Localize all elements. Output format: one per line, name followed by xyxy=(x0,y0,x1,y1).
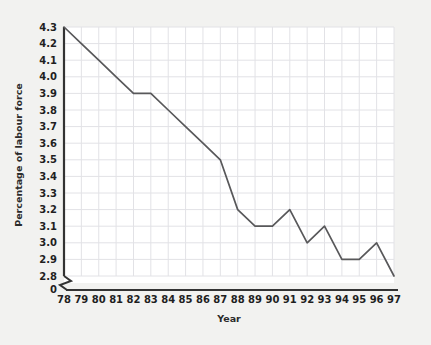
y-axis-tick-label: 3.2 xyxy=(39,204,57,215)
y-axis-tick-label: 3.3 xyxy=(39,188,57,199)
y-axis-tick-label: 4.0 xyxy=(39,71,57,82)
y-axis-tick-label: 3.8 xyxy=(39,105,57,116)
x-axis-tick-label: 80 xyxy=(92,294,106,305)
line-chart: 4.34.24.14.03.93.83.73.63.53.43.33.23.13… xyxy=(0,0,431,345)
y-axis-tick-label: 4.1 xyxy=(39,55,57,66)
x-axis-tick-label: 94 xyxy=(335,294,349,305)
y-axis-tick-label: 4.2 xyxy=(39,38,57,49)
x-axis-tick-label: 84 xyxy=(161,294,175,305)
x-axis-tick-label: 79 xyxy=(74,294,88,305)
x-axis-tick-label: 88 xyxy=(231,294,245,305)
x-axis-tick-label: 86 xyxy=(196,294,210,305)
y-axis-tick-label: 4.3 xyxy=(39,22,57,33)
y-axis-tick-label: 2.8 xyxy=(39,271,57,282)
x-axis-tick-label: 81 xyxy=(109,294,123,305)
y-axis-tick-label: 3.4 xyxy=(39,171,57,182)
x-axis-tick-label: 93 xyxy=(318,294,332,305)
y-axis-title: Percentage of labour force xyxy=(13,83,24,227)
x-axis-tick-label: 97 xyxy=(387,294,401,305)
y-axis-tick-label: 3.7 xyxy=(39,121,57,132)
x-axis-tick-label: 85 xyxy=(179,294,193,305)
y-axis-tick-label: 3.1 xyxy=(39,221,57,232)
y-axis-zero-label: 0 xyxy=(50,284,57,295)
y-axis-tick-label: 3.0 xyxy=(39,237,57,248)
x-axis-tick-label: 87 xyxy=(213,294,227,305)
x-axis-tick-label: 83 xyxy=(144,294,158,305)
y-axis-tick-label: 3.9 xyxy=(39,88,57,99)
x-axis-tick-label: 96 xyxy=(370,294,384,305)
x-axis-tick-label: 95 xyxy=(352,294,366,305)
chart-figure: 4.34.24.14.03.93.83.73.63.53.43.33.23.13… xyxy=(0,0,431,345)
y-axis-tick-label: 3.5 xyxy=(39,154,57,165)
x-axis-tick-label: 89 xyxy=(248,294,262,305)
x-axis-tick-label: 90 xyxy=(265,294,279,305)
x-axis-tick-label: 91 xyxy=(283,294,297,305)
x-axis-title: Year xyxy=(216,313,241,324)
x-axis-tick-label: 92 xyxy=(300,294,314,305)
x-axis-tick-label: 78 xyxy=(57,294,71,305)
x-axis-tick-label: 82 xyxy=(127,294,141,305)
plot-area-background xyxy=(64,27,394,283)
y-axis-tick-label: 3.6 xyxy=(39,138,57,149)
y-axis-tick-label: 2.9 xyxy=(39,254,57,265)
